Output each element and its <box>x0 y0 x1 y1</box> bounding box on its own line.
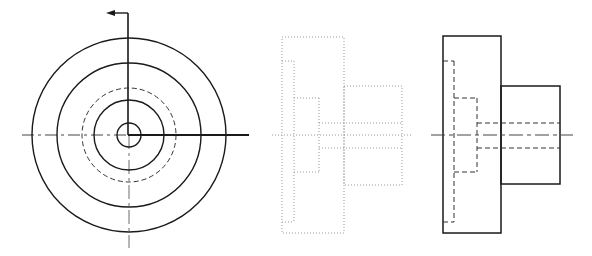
background <box>0 0 592 256</box>
engineering-drawing <box>0 0 592 256</box>
